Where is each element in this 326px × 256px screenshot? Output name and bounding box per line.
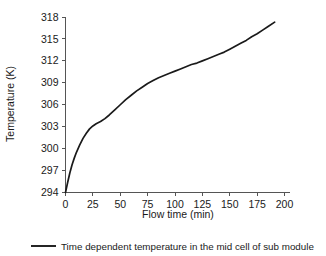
legend-label: Time dependent temperature in the mid ce… — [61, 241, 314, 252]
y-tick-label: 294 — [41, 186, 59, 198]
x-tick-label: 200 — [276, 198, 294, 210]
y-tick-label: 303 — [41, 120, 59, 132]
y-tick-label: 312 — [41, 54, 59, 66]
x-tick-label: 0 — [63, 198, 69, 210]
legend: Time dependent temperature in the mid ce… — [31, 241, 314, 252]
y-tick-label: 318 — [41, 11, 59, 23]
y-axis-title: Temperature (K) — [4, 66, 16, 142]
y-axis-tick-labels: 294297300303306309312315318 — [41, 11, 59, 199]
x-axis-tick-marks — [66, 193, 285, 197]
y-tick-label: 300 — [41, 142, 59, 154]
y-axis-tick-marks — [62, 17, 66, 193]
x-tick-label: 50 — [114, 198, 126, 210]
x-tick-label: 175 — [248, 198, 266, 210]
chart-figure: 294297300303306309312315318 025507510012… — [0, 0, 326, 256]
y-tick-label: 315 — [41, 33, 59, 45]
y-tick-label: 309 — [41, 76, 59, 88]
x-tick-label: 150 — [221, 198, 239, 210]
line-chart: 294297300303306309312315318 025507510012… — [0, 0, 326, 256]
y-tick-label: 297 — [41, 164, 59, 176]
series-line-temperature — [66, 22, 275, 192]
y-tick-label: 306 — [41, 98, 59, 110]
x-axis-title: Flow time (min) — [142, 208, 214, 220]
x-tick-label: 25 — [87, 198, 99, 210]
